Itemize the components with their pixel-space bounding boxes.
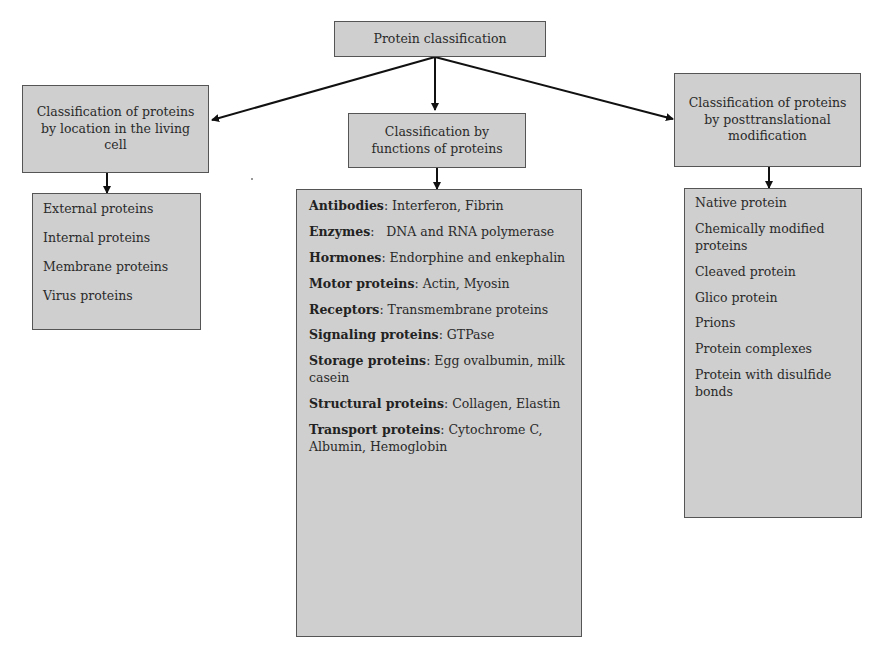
root-node: Protein classification <box>334 21 546 57</box>
list-item: Enzymes: DNA and RNA polymerase <box>309 224 569 241</box>
list-item: Signaling proteins: GTPase <box>309 327 569 344</box>
list-item: Receptors: Transmembrane proteins <box>309 302 569 319</box>
item-desc: : Interferon, Fibrin <box>384 198 504 213</box>
arrow-root-to-location <box>212 57 435 120</box>
item-term: Hormones <box>309 250 381 265</box>
branch-posttranslational-header: Classification of proteins by posttransl… <box>674 73 861 167</box>
list-item: Motor proteins: Actin, Myosin <box>309 276 569 293</box>
item-term: Signaling proteins <box>309 327 439 342</box>
item-desc: : Collagen, Elastin <box>444 396 560 411</box>
branch-function-label: Classification by functions of proteins <box>357 124 517 158</box>
list-item: Transport proteins: Cytochrome C, Albumi… <box>309 422 569 456</box>
item-desc: : DNA and RNA polymerase <box>370 224 554 239</box>
list-item: Membrane proteins <box>43 259 190 276</box>
stray-dot <box>251 178 253 180</box>
list-item: Native protein <box>695 195 851 212</box>
branch-posttranslational-list: Native protein Chemically modified prote… <box>684 188 862 518</box>
branch-function-header: Classification by functions of proteins <box>348 113 526 168</box>
item-desc: : Actin, Myosin <box>415 276 510 291</box>
list-item: Protein with disulfide bonds <box>695 367 851 401</box>
item-term: Motor proteins <box>309 276 415 291</box>
list-item: Internal proteins <box>43 230 190 247</box>
list-item: Cleaved protein <box>695 264 851 281</box>
item-term: Storage proteins <box>309 353 426 368</box>
arrow-root-to-posttranslational <box>435 57 673 119</box>
item-term: Structural proteins <box>309 396 444 411</box>
list-item: Structural proteins: Collagen, Elastin <box>309 396 569 413</box>
item-desc: : Endorphine and enkephalin <box>381 250 565 265</box>
list-item: Virus proteins <box>43 288 190 305</box>
list-item: Prions <box>695 315 851 332</box>
list-item: External proteins <box>43 201 190 218</box>
list-item: Glico protein <box>695 290 851 307</box>
list-item: Storage proteins: Egg ovalbumin, milk ca… <box>309 353 569 387</box>
item-term: Antibodies <box>309 198 384 213</box>
list-item: Hormones: Endorphine and enkephalin <box>309 250 569 267</box>
item-desc: : GTPase <box>439 327 495 342</box>
list-item: Protein complexes <box>695 341 851 358</box>
branch-function-list: Antibodies: Interferon, Fibrin Enzymes: … <box>296 189 582 637</box>
list-item: Chemically modified proteins <box>695 221 851 255</box>
item-desc: : Transmembrane proteins <box>379 302 548 317</box>
item-term: Enzymes <box>309 224 370 239</box>
item-term: Receptors <box>309 302 379 317</box>
branch-location-list: External proteins Internal proteins Memb… <box>32 193 201 330</box>
root-label: Protein classification <box>373 31 506 48</box>
list-item: Antibodies: Interferon, Fibrin <box>309 198 569 215</box>
branch-location-header: Classification of proteins by location i… <box>22 85 209 173</box>
branch-posttranslational-label: Classification of proteins by posttransl… <box>683 95 852 146</box>
branch-location-label: Classification of proteins by location i… <box>29 104 202 155</box>
item-term: Transport proteins <box>309 422 440 437</box>
